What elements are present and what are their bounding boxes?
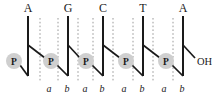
site-labels: abababab	[47, 83, 185, 94]
site-label-1: b	[65, 83, 70, 94]
site-label-2: a	[83, 83, 88, 94]
base-label-4: A	[179, 1, 188, 15]
cleavage-site-guide-lines	[40, 18, 173, 82]
phosphate-linker-bonds	[20, 65, 183, 76]
base-labels: AGCTA	[24, 1, 188, 15]
linker-bond-4	[172, 65, 183, 76]
linker-bond-2	[92, 65, 103, 76]
base-label-2: C	[99, 1, 107, 15]
dna-backbone-diagram: PPPPP AGCTA abababab OH	[0, 0, 212, 96]
branch-bond-4	[183, 45, 195, 58]
site-label-4: a	[122, 83, 127, 94]
phosphate-group-markers: PPPPP	[6, 53, 174, 69]
site-label-7: b	[180, 83, 185, 94]
base-label-0: A	[24, 1, 33, 15]
phosphate-label-0: P	[11, 57, 17, 67]
site-label-6: a	[162, 83, 167, 94]
branch-bond-3	[143, 45, 160, 58]
linker-bond-1	[57, 65, 68, 76]
branch-bond-2	[103, 45, 120, 58]
phosphate-label-1: P	[48, 57, 54, 67]
site-label-0: a	[47, 83, 52, 94]
hydroxyl-terminus-label: OH	[197, 56, 212, 67]
base-label-3: T	[139, 1, 147, 15]
diagram-canvas: PPPPP AGCTA abababab OH	[0, 0, 212, 96]
site-label-5: b	[140, 83, 145, 94]
phosphate-label-2: P	[83, 57, 89, 67]
linker-bond-0	[20, 65, 28, 76]
site-label-3: b	[100, 83, 105, 94]
branch-bond-0	[28, 45, 45, 58]
phosphate-label-4: P	[163, 57, 169, 67]
linker-bond-3	[132, 65, 143, 76]
phosphate-label-3: P	[123, 57, 129, 67]
branch-bond-1	[68, 45, 80, 58]
base-label-1: G	[64, 1, 73, 15]
